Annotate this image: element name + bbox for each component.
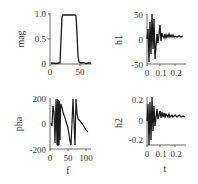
mag-ytick-05: 0.5: [35, 34, 47, 44]
pha-ytick-200: 200: [33, 94, 47, 104]
pha-series: [51, 99, 88, 146]
h1-ytick-0: 0: [139, 35, 144, 45]
h1-ylabel: h1: [113, 35, 124, 45]
h2-ytick-neg02: -0.2: [129, 135, 143, 145]
panel-h2: 0.2 0 -0.2 0 0.1 0.2 t h2: [113, 95, 186, 174]
mag-series: [51, 15, 91, 64]
h1-ytick-50: 50: [134, 10, 144, 20]
pha-ytick-neg200: -200: [30, 145, 47, 155]
pha-xtick-0: 0: [48, 153, 53, 163]
h2-series: [147, 97, 185, 145]
figure: 1.0 0.5 0 0 50 mag 50 0 -50 0 0.1 0.2 h1…: [0, 0, 198, 184]
panel-mag: 1.0 0.5 0 0 50 mag: [15, 9, 92, 77]
h1-ytick-neg50: -50: [131, 60, 143, 70]
h2-xlabel: t: [164, 163, 167, 174]
pha-ytick-0: 0: [42, 119, 47, 129]
h2-ylabel: h2: [113, 118, 124, 128]
h2-ytick-02: 0.2: [132, 95, 143, 105]
h2-xtick-02: 0.2: [170, 149, 181, 159]
mag-ytick-1: 1.0: [35, 9, 47, 19]
pha-xlabel: f: [66, 165, 70, 176]
mag-xtick-0: 0: [48, 67, 53, 77]
pha-ylabel: pha: [13, 116, 24, 131]
panel-pha: 200 0 -200 0 50 100 f pha: [13, 94, 93, 176]
mag-xtick-50: 50: [76, 67, 86, 77]
h2-ytick-0: 0: [139, 116, 144, 126]
h1-series: [147, 14, 183, 62]
panel-h1: 50 0 -50 0 0.1 0.2 h1: [113, 10, 186, 78]
mag-ylabel: mag: [15, 30, 26, 47]
h2-xtick-01: 0.1: [155, 149, 166, 159]
h2-xtick-0: 0: [145, 149, 150, 159]
pha-xtick-100: 100: [79, 153, 93, 163]
h1-xtick-0: 0: [145, 68, 150, 78]
pha-xtick-50: 50: [64, 153, 74, 163]
mag-axes: [50, 13, 92, 64]
h1-xtick-02: 0.2: [170, 68, 181, 78]
mag-ytick-0: 0: [42, 59, 47, 69]
h1-xtick-01: 0.1: [155, 68, 166, 78]
